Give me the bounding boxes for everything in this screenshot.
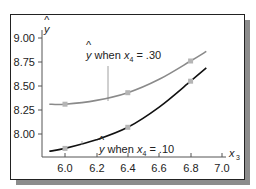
data-point-marker bbox=[125, 90, 130, 95]
annotation-upper: y when x4 = .30 bbox=[85, 49, 161, 63]
data-point-marker bbox=[125, 125, 130, 130]
x-tick-label: 6.4 bbox=[120, 162, 135, 174]
y-tick-label: 8.25 bbox=[14, 104, 35, 116]
x-axis-label-sub: 3 bbox=[236, 154, 240, 161]
y-tick-label: 8.00 bbox=[14, 128, 35, 140]
x-axis-label: x bbox=[228, 147, 235, 159]
annotation-lower-hat: ^ bbox=[99, 134, 105, 146]
data-point-marker bbox=[188, 79, 193, 84]
annotation-lower: y when x4 = .10 bbox=[98, 143, 174, 157]
annotation-upper-hat: ^ bbox=[86, 39, 92, 51]
x-tick-label: 6.6 bbox=[151, 162, 166, 174]
data-point-marker bbox=[63, 102, 68, 107]
data-point-marker bbox=[188, 59, 193, 64]
x-tick-label: 6.8 bbox=[183, 162, 198, 174]
y-tick-label: 9.00 bbox=[14, 32, 35, 44]
chart-figure: 9.00 8.75 8.50 8.25 8.00 6.0 6.2 6.4 6.6… bbox=[0, 0, 256, 189]
x-tick-label: 6.2 bbox=[89, 162, 104, 174]
y-tick-label: 8.50 bbox=[14, 80, 35, 92]
x-tick-label: 7.0 bbox=[214, 162, 229, 174]
y-tick-label: 8.75 bbox=[14, 56, 35, 68]
data-point-marker bbox=[63, 146, 68, 151]
x-tick-label: 6.0 bbox=[57, 162, 72, 174]
